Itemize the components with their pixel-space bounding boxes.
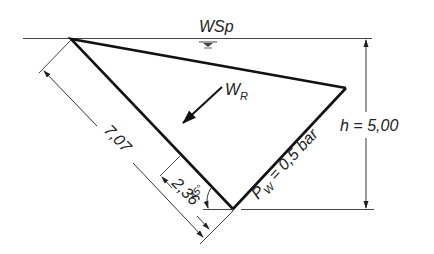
extension-line-top — [39, 40, 71, 73]
resultant-force-label: WR — [225, 81, 248, 102]
force-position-extension — [160, 155, 181, 176]
angle-arc — [207, 188, 211, 208]
water-surface-label: WSp — [199, 18, 234, 35]
extension-line-bottom — [200, 211, 233, 244]
slant-length-label: 7,07 — [101, 121, 136, 156]
slant-length-dimension-upper — [44, 71, 97, 126]
force-position-dimension-lower — [197, 216, 209, 229]
height-label: h = 5,00 — [340, 117, 398, 134]
pressure-label: PW = 0,5 bar — [248, 125, 324, 204]
water-surface-symbol-icon — [199, 42, 217, 48]
hydrostatic-pressure-diagram: WSp h = 5,00 7,07 2,36 45° WR PW = 0,5 b… — [0, 0, 434, 254]
resultant-force-arrow — [183, 87, 222, 123]
